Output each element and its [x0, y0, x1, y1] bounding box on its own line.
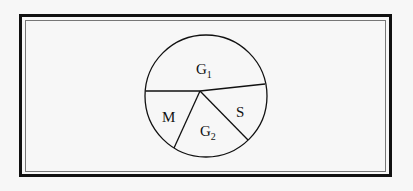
region-label-g2: G2	[200, 123, 216, 142]
pie-diagram: G1 S G2 M	[0, 0, 413, 191]
divider-lower-left	[174, 91, 200, 148]
divider-right	[200, 84, 265, 91]
region-label-s: S	[236, 104, 244, 120]
region-label-m: M	[162, 109, 175, 125]
region-label-g1: G1	[196, 61, 212, 80]
